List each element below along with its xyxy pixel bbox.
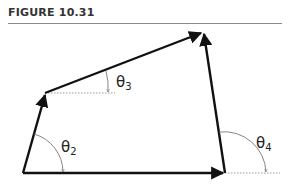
linkage-diagram (0, 0, 294, 191)
theta3-label: θ3 (116, 75, 132, 92)
theta4-subscript: 4 (265, 142, 271, 153)
theta2-symbol: θ (61, 138, 70, 156)
theta4-label: θ4 (256, 136, 272, 153)
theta2-arc (34, 134, 63, 172)
vector-r4 (204, 34, 225, 173)
theta3-subscript: 3 (125, 81, 131, 92)
theta2-subscript: 2 (70, 146, 76, 157)
theta3-arc (106, 71, 108, 92)
theta2-label: θ2 (61, 140, 77, 157)
theta4-symbol: θ (256, 134, 265, 152)
theta3-symbol: θ (116, 73, 125, 91)
